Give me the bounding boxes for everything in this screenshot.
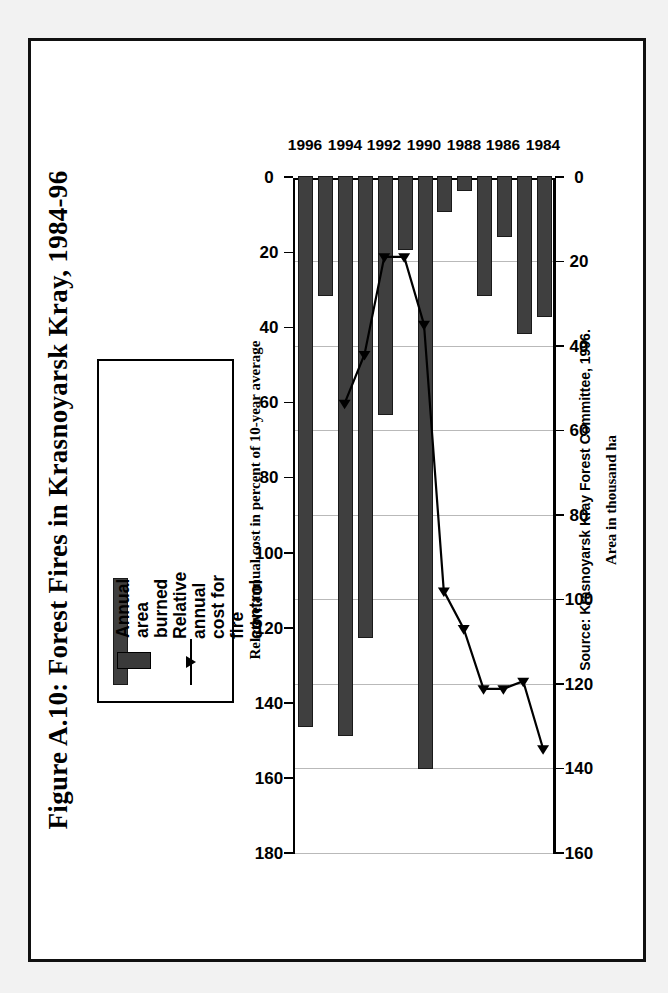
category-label-1988: 1988: [446, 136, 480, 154]
primary-tick: [555, 430, 564, 432]
category-label-1994: 1994: [327, 136, 361, 154]
figure-title: Figure A.10: Forest Fires in Krasnoyarsk…: [43, 50, 74, 950]
secondary-tick-label: 160: [255, 769, 283, 789]
primary-tick: [555, 684, 564, 686]
secondary-tick: [284, 853, 293, 855]
category-label-1992: 1992: [367, 136, 401, 154]
secondary-axis-title: Relative annual cost in percent of 10-ye…: [247, 50, 264, 950]
primary-axis-title: Area in thousand ha: [603, 50, 620, 950]
primary-tick: [555, 599, 564, 601]
secondary-tick: [284, 402, 293, 404]
figure-plate-border: Figure A.10: Forest Fires in Krasnoyarsk…: [28, 38, 646, 962]
primary-tick: [555, 853, 564, 855]
secondary-tick-label: 20: [260, 243, 279, 263]
secondary-tick: [284, 177, 293, 179]
secondary-tick-label: 120: [255, 619, 283, 639]
secondary-tick: [284, 552, 293, 554]
category-label-1984: 1984: [526, 136, 560, 154]
secondary-tick-label: 60: [260, 393, 279, 413]
secondary-tick-label: 40: [260, 318, 279, 338]
legend-label-annual-area-burned: Annualareaburned: [114, 579, 171, 638]
primary-tick: [555, 346, 564, 348]
secondary-tick-label: 180: [255, 844, 283, 864]
category-label-1986: 1986: [486, 136, 520, 154]
plot-area: 0204060801001201401600204060801001201401…: [295, 178, 553, 854]
secondary-tick-label: 80: [260, 468, 279, 488]
secondary-tick: [284, 252, 293, 254]
secondary-tick: [284, 702, 293, 704]
legend-bar-swatch-icon: [114, 638, 154, 684]
primary-tick: [555, 768, 564, 770]
secondary-tick: [284, 327, 293, 329]
primary-axis: [553, 178, 556, 854]
secondary-tick: [284, 627, 293, 629]
legend-item-annual-area-burned: Annualareaburned: [113, 578, 128, 685]
secondary-tick: [284, 777, 293, 779]
secondary-tick-label: 100: [255, 544, 283, 564]
secondary-tick: [284, 477, 293, 479]
source-note: Source: Krasnoyarsk Kray Forest Committe…: [577, 50, 593, 950]
secondary-tick-label: 0: [264, 168, 273, 188]
primary-tick: [555, 177, 564, 179]
primary-tick: [555, 261, 564, 263]
category-label-1990: 1990: [407, 136, 441, 154]
primary-tick: [555, 515, 564, 517]
secondary-tick-label: 140: [255, 694, 283, 714]
category-label-1996: 1996: [288, 136, 322, 154]
scanned-page: Figure A.10: Forest Fires in Krasnoyarsk…: [0, 0, 668, 993]
chart-legend: Annualareaburned Relativeannualcost forf…: [97, 359, 234, 703]
rotated-figure-plate: Figure A.10: Forest Fires in Krasnoyarsk…: [37, 50, 637, 950]
line-series-relative-cost: [295, 178, 553, 854]
legend-line-marker-icon: [171, 639, 211, 685]
